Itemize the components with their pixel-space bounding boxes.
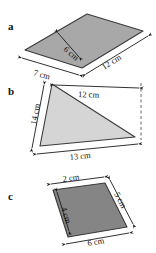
panel-b: b 12 cm 14 cm 13 cm bbox=[8, 83, 141, 162]
dimension-label-a-7cm: 7 cm bbox=[32, 67, 51, 81]
panel-a-letter: a bbox=[8, 20, 14, 32]
panel-a: a 6 cm 7 cm 12 cm bbox=[8, 14, 148, 82]
panel-c-letter: c bbox=[8, 190, 13, 202]
panel-b-letter: b bbox=[8, 85, 14, 97]
dimension-label-b-12cm: 12 cm bbox=[78, 89, 100, 100]
geometry-figure: a 6 cm 7 cm 12 cm b 12 cm 14 cm 13 cm c bbox=[0, 0, 156, 253]
dimension-label-b-13cm: 13 cm bbox=[69, 150, 91, 162]
parallelogram-shape-a bbox=[25, 14, 143, 68]
dimension-label-c-2cm: 2 cm bbox=[62, 172, 80, 184]
dimension-label-b-14cm: 14 cm bbox=[28, 102, 42, 125]
dimension-label-c-6cm: 6 cm bbox=[87, 235, 106, 248]
panel-c: c 2 cm 5 cm 4 cm 6 cm bbox=[8, 172, 133, 248]
dimension-line-b-12cm bbox=[54, 85, 139, 88]
